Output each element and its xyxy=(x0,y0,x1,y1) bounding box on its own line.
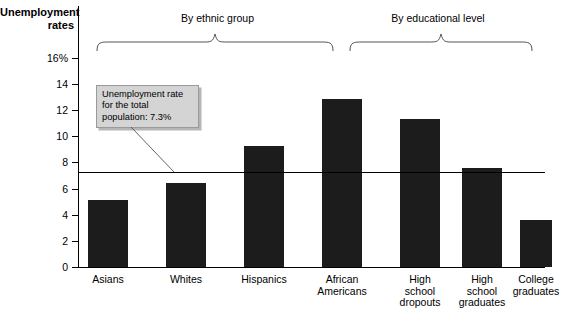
y-tick-12 xyxy=(72,110,78,111)
group-brace-ethnic xyxy=(95,30,335,52)
category-label-high-school-graduates: High school graduates xyxy=(452,274,512,309)
y-tick-6 xyxy=(72,189,78,190)
y-axis-title-line2: rates xyxy=(48,19,74,31)
y-tick-label-6: 6 xyxy=(28,184,68,194)
y-tick-0 xyxy=(72,267,78,268)
y-tick-16 xyxy=(72,58,78,59)
category-label-hispanics: Hispanics xyxy=(234,274,294,286)
y-tick-label-16: 16% xyxy=(28,53,68,63)
category-label-asians: Asians xyxy=(78,274,138,286)
category-label-high-school-dropouts: High school dropouts xyxy=(390,274,450,309)
y-tick-2 xyxy=(72,241,78,242)
y-tick-label-8: 8 xyxy=(28,157,68,167)
y-tick-label-0: 0 xyxy=(28,262,68,272)
bar-college-graduates xyxy=(520,220,552,267)
y-tick-label-12: 12 xyxy=(28,105,68,115)
y-tick-8 xyxy=(72,162,78,163)
y-tick-4 xyxy=(72,215,78,216)
group-brace-education xyxy=(348,30,534,52)
group-header-education: By educational level xyxy=(348,12,528,24)
annotation-leader-line xyxy=(130,126,190,174)
bar-whites xyxy=(166,183,206,267)
y-axis-title: Unemployment rates xyxy=(0,6,74,31)
y-tick-label-10: 10 xyxy=(28,131,68,141)
y-tick-14 xyxy=(72,84,78,85)
category-label-african-americans: African Americans xyxy=(312,274,372,297)
annotation-total-population: Unemployment rate for the total populati… xyxy=(96,85,199,128)
bar-hispanics xyxy=(244,146,284,268)
x-axis-line xyxy=(78,267,545,268)
category-label-whites: Whites xyxy=(156,274,216,286)
y-tick-label-14: 14 xyxy=(28,79,68,89)
bar-african-americans xyxy=(322,99,362,268)
bar-asians xyxy=(88,200,128,267)
y-axis-title-line1: Unemployment xyxy=(0,6,79,18)
y-tick-label-4: 4 xyxy=(28,210,68,220)
y-tick-label-2: 2 xyxy=(28,236,68,246)
y-axis-line xyxy=(78,6,79,268)
category-label-college-graduates: College graduates xyxy=(506,274,564,297)
bar-high-school-graduates xyxy=(462,168,502,267)
y-tick-10 xyxy=(72,136,78,137)
bar-high-school-dropouts xyxy=(400,119,440,267)
group-header-ethnic: By ethnic group xyxy=(105,12,330,24)
